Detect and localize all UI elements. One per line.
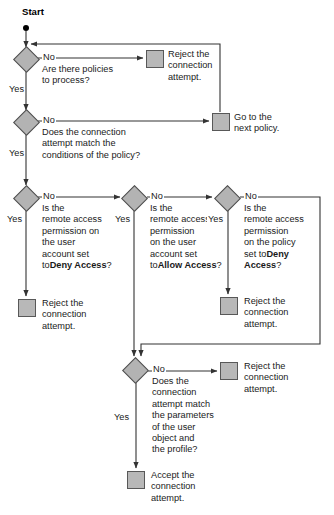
decision-user-account-allow-access[interactable] bbox=[121, 185, 148, 212]
decision-4-text-bold: Allow Access bbox=[158, 260, 217, 270]
edge-label-d5-no: No bbox=[244, 191, 258, 201]
edge-label-d6-yes: Yes bbox=[113, 412, 130, 422]
decision-4-text-tail: ? bbox=[217, 260, 222, 270]
edge-label-d2-yes: Yes bbox=[8, 148, 25, 158]
terminal-next-policy-text: Go to the next policy. bbox=[234, 112, 324, 135]
decision-attempt-matches-parameters[interactable] bbox=[122, 357, 149, 384]
decision-2-text: Does the connection attempt match the co… bbox=[42, 127, 152, 161]
edge-label-d1-no: No bbox=[42, 52, 56, 62]
decision-user-account-deny-access[interactable] bbox=[13, 185, 40, 212]
start-label: Start bbox=[22, 6, 44, 17]
decision-5-text: Is the remote access permission on the p… bbox=[244, 203, 324, 271]
terminal-reject-4-text: Reject the connection attempt. bbox=[244, 361, 324, 395]
edge-label-d5-yes: Yes bbox=[207, 214, 224, 224]
decision-1-text: Are there policies to process? bbox=[42, 64, 142, 87]
edge-label-d2-no: No bbox=[42, 115, 56, 125]
terminal-reject-3-text: Reject the connection attempt. bbox=[244, 296, 324, 330]
terminal-reject-1-box[interactable] bbox=[146, 50, 164, 68]
terminal-reject-3-box[interactable] bbox=[220, 297, 238, 315]
edge-label-d4-no: No bbox=[150, 191, 164, 201]
terminal-next-policy-box[interactable] bbox=[212, 113, 230, 131]
decision-are-there-policies[interactable] bbox=[13, 46, 40, 73]
edge-label-d3-no: No bbox=[42, 191, 56, 201]
terminal-reject-1-text: Reject the connection attempt. bbox=[168, 49, 248, 83]
decision-6-text: Does the connection attempt match the pa… bbox=[152, 376, 230, 456]
terminal-reject-4-box[interactable] bbox=[220, 362, 238, 380]
flowchart-canvas: Start No Yes Are there policies to proce… bbox=[0, 0, 334, 515]
edge-label-d1-yes: Yes bbox=[8, 84, 25, 94]
decision-connection-matches-conditions[interactable] bbox=[13, 109, 40, 136]
edge-label-d6-no: No bbox=[152, 364, 166, 374]
terminal-accept-text: Accept the connection attempt. bbox=[151, 470, 231, 504]
terminal-accept-box[interactable] bbox=[127, 471, 145, 489]
edge-label-d4-yes: Yes bbox=[114, 214, 131, 224]
decision-3-text: Is the remote access permission on the u… bbox=[42, 203, 120, 271]
edge-label-d3-yes: Yes bbox=[6, 214, 23, 224]
decision-3-text-bold: Deny Access bbox=[50, 260, 107, 270]
decision-5-text-tail: ? bbox=[276, 260, 281, 270]
terminal-reject-2-text: Reject the connection attempt. bbox=[42, 298, 122, 332]
start-bullet bbox=[23, 25, 29, 31]
terminal-reject-2-box[interactable] bbox=[18, 299, 36, 317]
decision-3-text-tail: ? bbox=[107, 260, 112, 270]
